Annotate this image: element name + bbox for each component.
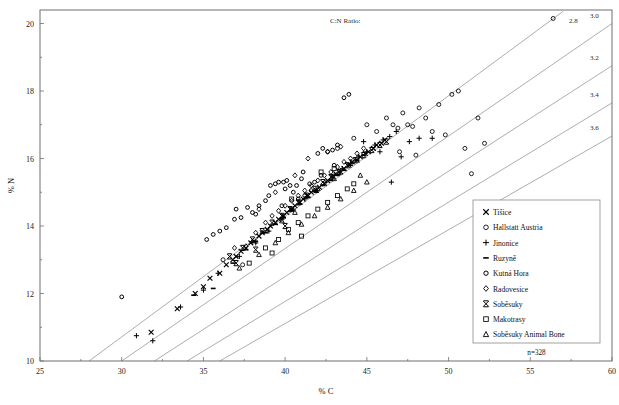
y-tick-label-12: 12 bbox=[26, 290, 34, 299]
x-tick-label-45: 45 bbox=[363, 367, 371, 376]
y-tick-label-20: 20 bbox=[26, 20, 34, 29]
legend-label: Soběsuky bbox=[493, 300, 523, 309]
chart-figure: 2.83.03.23.43.6 2530354045505560 1012141… bbox=[0, 0, 619, 405]
legend-label: Hallstatt Austria bbox=[493, 223, 543, 232]
chart-legend: TišiceHallstatt AustriaJinoniceRuzyněKut… bbox=[473, 200, 600, 357]
legend-label: Jinonice bbox=[493, 239, 519, 248]
cn-ratio-label-3.4: 3.4 bbox=[590, 91, 599, 99]
cn-ratio-label-2.8: 2.8 bbox=[569, 17, 578, 25]
y-tick-label-18: 18 bbox=[26, 87, 34, 96]
x-axis-title: % C bbox=[319, 386, 334, 396]
x-tick-label-50: 50 bbox=[445, 367, 453, 376]
cn-ratio-label-3.6: 3.6 bbox=[590, 124, 599, 132]
y-tick-label-14: 14 bbox=[26, 222, 34, 231]
y-axis-title: % N bbox=[6, 178, 16, 193]
y-tick-label-10: 10 bbox=[26, 357, 34, 366]
x-tick-label-55: 55 bbox=[526, 367, 534, 376]
y-tick-label-16: 16 bbox=[26, 155, 34, 164]
x-tick-label-60: 60 bbox=[608, 367, 616, 376]
legend-label: Kutná Hora bbox=[493, 269, 529, 278]
legend-label: Makotrasy bbox=[493, 315, 526, 324]
cn-ratio-label-3.2: 3.2 bbox=[590, 54, 599, 62]
cn-ratio-title: C:N Ratio: bbox=[330, 17, 361, 25]
x-tick-label-40: 40 bbox=[281, 367, 289, 376]
legend-item-hallstatt-austria[interactable]: Hallstatt Austria bbox=[484, 223, 543, 232]
legend-label: Radovesice bbox=[493, 285, 529, 294]
cn-ratio-label-3.0: 3.0 bbox=[590, 12, 599, 20]
sample-count-label: n=328 bbox=[527, 349, 546, 357]
legend-label: Soběsuky Animal Bone bbox=[493, 330, 565, 339]
x-tick-label-25: 25 bbox=[36, 367, 44, 376]
legend-label: Ruzyně bbox=[493, 254, 517, 263]
x-tick-label-30: 30 bbox=[118, 367, 126, 376]
x-tick-label-35: 35 bbox=[199, 367, 207, 376]
legend-label: Tišice bbox=[493, 208, 512, 217]
scatter-plot-canvas: 2.83.03.23.43.6 2530354045505560 1012141… bbox=[0, 0, 619, 405]
legend-item-sob-suky-animal-bone[interactable]: Soběsuky Animal Bone bbox=[483, 330, 565, 339]
